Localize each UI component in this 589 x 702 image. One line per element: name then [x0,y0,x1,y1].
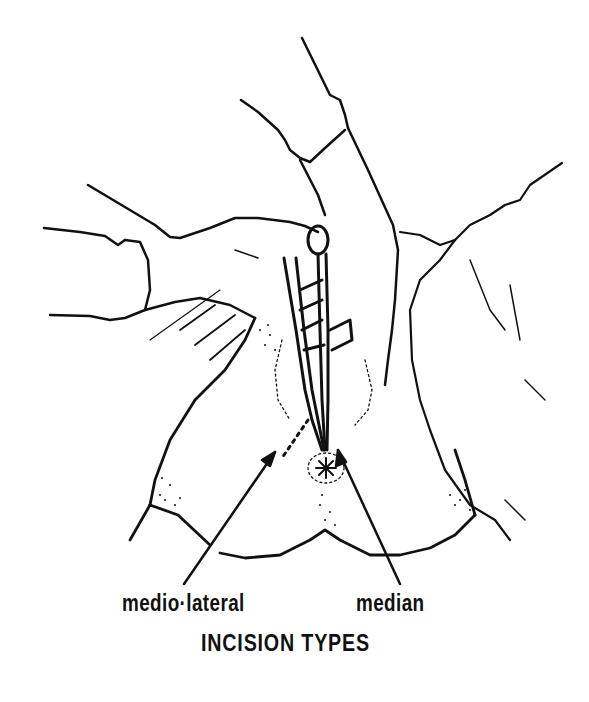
right-drape [400,163,562,540]
scissors [284,226,352,450]
median-label: median [356,590,424,617]
anus-star [316,458,336,478]
mediolateral-incision-line [282,420,308,458]
incision-types-figure: medio·lateral median INCISION TYPES [0,0,589,702]
left-drape [150,290,245,360]
illustration-drawing [0,0,589,702]
buttocks-outline [130,318,475,558]
mediolateral-arrow [184,452,275,584]
median-arrow [336,450,400,584]
left-arm-hand [44,185,318,320]
figure-caption: INCISION TYPES [201,629,370,657]
mediolateral-label: medio·lateral [122,590,245,617]
